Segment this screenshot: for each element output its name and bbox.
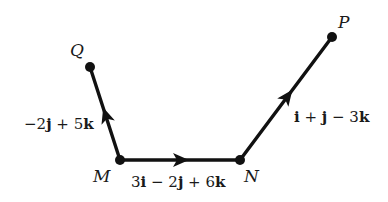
point-N-label: N [243,166,260,186]
point-M-label: M [92,166,111,186]
vector-diagram: Q M N P −2j + 5k 3i − 2j + 6k i + j − 3k [0,0,388,202]
point-M-dot [115,155,125,165]
point-N-dot [235,155,245,165]
vector-MN-label: 3i − 2j + 6k [131,173,226,191]
point-P-label: P [337,12,350,32]
vector-MQ-label: −2j + 5k [24,115,94,133]
point-P-dot [327,32,337,42]
arrowhead-MQ-icon [97,105,115,125]
point-Q-label: Q [70,40,84,60]
vector-NP-label: i + j − 3k [294,108,370,126]
point-Q-dot [85,62,95,72]
